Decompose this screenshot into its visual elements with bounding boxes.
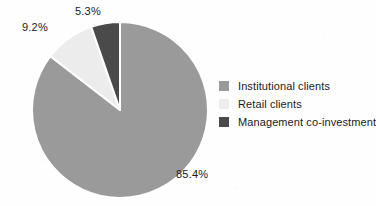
legend-item-label: Retail clients xyxy=(238,98,302,110)
pie-slice-label-institutional-clients: 85.4% xyxy=(176,168,208,180)
pie-slice-label-retail-clients: 9.2% xyxy=(22,21,48,33)
chart-legend: Institutional clients Retail clients Man… xyxy=(219,80,376,128)
pie-chart-figure: 85.4% 9.2% 5.3% Institutional clients Re… xyxy=(0,0,376,206)
legend-swatch-icon xyxy=(219,81,229,91)
legend-item-retail-clients[interactable]: Retail clients xyxy=(219,98,376,110)
legend-item-label: Management co-investment xyxy=(238,116,376,128)
legend-item-label: Institutional clients xyxy=(238,80,330,92)
pie-slice-label-management-co-investment: 5.3% xyxy=(75,5,101,17)
legend-item-institutional-clients[interactable]: Institutional clients xyxy=(219,80,376,92)
legend-swatch-icon xyxy=(219,117,229,127)
legend-swatch-icon xyxy=(219,99,229,109)
legend-item-management-co-investment[interactable]: Management co-investment xyxy=(219,116,376,128)
